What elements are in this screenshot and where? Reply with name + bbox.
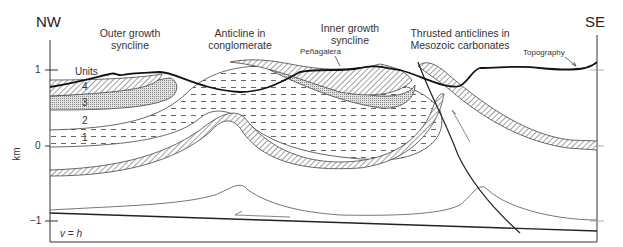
direction-se: SE: [585, 16, 605, 28]
direction-nw: NW: [36, 16, 61, 28]
deep-horizon: [50, 185, 597, 220]
cross-section-diagram: [0, 0, 623, 247]
header-inner-syncline: Inner growth syncline: [315, 22, 385, 46]
units-title: Units: [75, 66, 98, 78]
tick-label-minus1: −1: [30, 215, 41, 227]
unit-label-4: 4: [82, 81, 88, 93]
tick-label-0: 0: [35, 140, 41, 152]
unit-label-1: 1: [82, 132, 88, 144]
label-topography: Topography: [523, 47, 565, 59]
label-penagalera: Peñagalera: [300, 46, 341, 58]
thrust-fault: [418, 62, 520, 233]
header-anticline-conglomerate: Anticline in conglomerate: [205, 27, 275, 51]
axis-label-km: km: [11, 147, 23, 160]
header-outer-syncline: Outer growth syncline: [95, 27, 165, 51]
tick-label-1: 1: [35, 64, 41, 76]
scale-note: v = h: [60, 228, 82, 240]
marker-bed-thrust-sheet: [418, 63, 597, 150]
unit-label-3: 3: [82, 97, 88, 109]
header-thrusted-anticlines: Thrusted anticlines in Mesozoic carbonat…: [395, 27, 525, 51]
unit-label-2: 2: [82, 115, 88, 127]
